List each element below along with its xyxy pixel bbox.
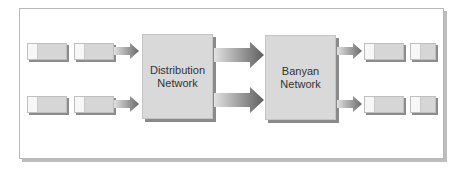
arrow-right-icon	[114, 95, 140, 113]
distribution-network-node: Distribution Network	[142, 34, 213, 119]
node-label: Banyan	[280, 65, 320, 78]
output-cell	[364, 96, 404, 113]
input-cell	[74, 96, 114, 113]
input-cell	[74, 43, 114, 60]
diagram-frame	[19, 8, 444, 159]
node-label: Network	[280, 78, 320, 91]
arrow-right-icon	[337, 42, 363, 60]
output-cell	[410, 96, 436, 113]
arrow-right-icon	[114, 42, 140, 60]
arrow-right-icon	[214, 42, 264, 68]
arrow-right-icon	[337, 95, 363, 113]
banyan-network-node: Banyan Network	[265, 35, 336, 120]
output-cell	[364, 43, 404, 60]
arrow-right-icon	[214, 87, 264, 113]
input-cell	[27, 43, 67, 60]
node-label: Distribution	[150, 64, 205, 77]
output-cell	[410, 43, 436, 60]
input-cell	[27, 96, 67, 113]
node-label: Network	[150, 77, 205, 90]
